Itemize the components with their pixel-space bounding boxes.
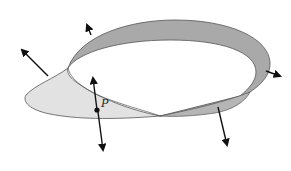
normal-arrow-left — [22, 50, 48, 76]
normal-arrow-top — [87, 25, 91, 35]
point-p-marker — [94, 107, 99, 112]
strip-light-surface — [25, 68, 160, 118]
normal-arrow-bottom-right — [218, 107, 227, 145]
mobius-strip-diagram: P — [0, 0, 291, 171]
point-p-label: P — [101, 98, 108, 109]
mobius-strip-figure — [0, 0, 291, 171]
